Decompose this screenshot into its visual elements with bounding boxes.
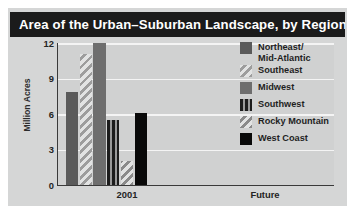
bar [66, 92, 78, 185]
legend-swatch-icon [240, 65, 252, 77]
legend-swatch-icon [240, 42, 252, 54]
bar [135, 113, 147, 185]
y-tick-label: 6 [32, 110, 54, 119]
legend-item[interactable]: Southeast [240, 65, 302, 77]
chart-figure: Area of the Urban–Suburban Landscape, by… [0, 0, 355, 218]
x-tick-label: 2001 [58, 189, 196, 200]
x-axis-line [57, 185, 334, 186]
y-tick-label: 3 [32, 145, 54, 154]
legend-label: West Coast [258, 133, 308, 144]
legend-swatch-icon [240, 116, 252, 128]
chart-title: Area of the Urban–Suburban Landscape, by… [19, 16, 345, 33]
y-tick-label: 9 [32, 74, 54, 83]
bar [121, 161, 133, 185]
legend-label: Southwest [258, 99, 304, 110]
legend-swatch-icon [240, 82, 252, 94]
y-tick-label: 12 [32, 39, 54, 48]
y-tick-label: 0 [32, 181, 54, 190]
chart-title-bar: Area of the Urban–Suburban Landscape, by… [10, 12, 345, 37]
legend-item[interactable]: Southwest [240, 99, 304, 111]
legend-item[interactable]: West Coast [240, 133, 308, 145]
legend-swatch-icon [240, 133, 252, 145]
legend-swatch-icon [240, 99, 252, 111]
legend-label: Northeast/ Mid-Atlantic [258, 42, 311, 63]
y-axis-tick-labels: 036912 [26, 38, 54, 206]
bar [93, 43, 105, 185]
x-tick-label: Future [196, 189, 334, 200]
legend-label: Midwest [258, 82, 294, 93]
bar [107, 120, 119, 185]
legend-label: Southeast [258, 65, 302, 76]
legend-item[interactable]: Rocky Mountain [240, 116, 329, 128]
bar [80, 54, 92, 185]
legend-label: Rocky Mountain [258, 116, 329, 127]
legend-item[interactable]: Midwest [240, 82, 294, 94]
legend-item[interactable]: Northeast/ Mid-Atlantic [240, 42, 311, 63]
